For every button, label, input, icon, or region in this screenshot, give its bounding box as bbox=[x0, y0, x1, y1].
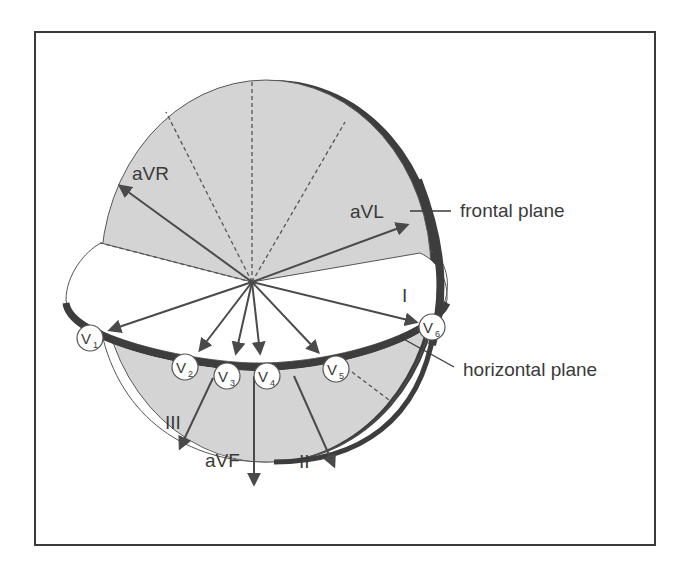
label-aVF: aVF bbox=[205, 450, 240, 471]
svg-text:5: 5 bbox=[339, 371, 344, 381]
svg-text:V: V bbox=[176, 359, 186, 376]
svg-text:4: 4 bbox=[270, 378, 275, 388]
electrode-V2: V 2 bbox=[172, 354, 198, 380]
svg-text:V: V bbox=[327, 361, 337, 378]
svg-text:V: V bbox=[423, 319, 433, 336]
electrode-V5: V 5 bbox=[323, 356, 349, 382]
svg-text:3: 3 bbox=[230, 378, 235, 388]
svg-text:V: V bbox=[81, 330, 91, 347]
label-aVR: aVR bbox=[132, 163, 169, 184]
horizontal-plane-label: horizontal plane bbox=[463, 359, 597, 380]
ecg-planes-diagram: aVR aVL I III aVF II V 1 V 2 V 3 V 4 V 5… bbox=[0, 0, 700, 574]
svg-text:V: V bbox=[258, 368, 268, 385]
electrode-V4: V 4 bbox=[254, 363, 280, 389]
label-II: II bbox=[299, 451, 310, 472]
label-I: I bbox=[402, 285, 407, 306]
electrode-V6: V 6 bbox=[419, 314, 445, 340]
svg-text:2: 2 bbox=[188, 369, 193, 379]
svg-text:6: 6 bbox=[435, 329, 440, 339]
frontal-plane-label: frontal plane bbox=[460, 200, 565, 221]
svg-text:V: V bbox=[218, 368, 228, 385]
svg-text:1: 1 bbox=[93, 340, 98, 350]
label-aVL: aVL bbox=[350, 201, 384, 222]
electrode-V3: V 3 bbox=[214, 363, 240, 389]
electrode-V1: V 1 bbox=[77, 325, 103, 351]
label-III: III bbox=[165, 412, 181, 433]
